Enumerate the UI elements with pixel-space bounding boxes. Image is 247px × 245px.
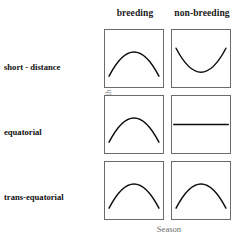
- panel-short-distance-breeding: [104, 29, 164, 88]
- row-label-short-distance: short - distance: [4, 62, 88, 72]
- panel-short-distance-non-breeding: [171, 29, 231, 88]
- curve-equatorial-non-breeding: [172, 96, 230, 153]
- panel-trans-equatorial-breeding: [104, 161, 164, 220]
- row-label-equatorial: equatorial: [4, 127, 88, 137]
- curve-path: [176, 48, 226, 72]
- daylength-season-figure: breeding non-breeding short - distance e…: [0, 0, 247, 245]
- curve-short-distance-non-breeding: [172, 30, 230, 87]
- curve-path: [176, 184, 226, 208]
- curve-equatorial-breeding: [105, 96, 163, 153]
- curve-path: [109, 52, 159, 76]
- panel-trans-equatorial-non-breeding: [171, 161, 231, 220]
- panel-equatorial-breeding: [104, 95, 164, 154]
- row-label-trans-equatorial: trans-equatorial: [4, 192, 88, 202]
- curve-path: [109, 118, 159, 142]
- column-header-breeding: breeding: [104, 8, 166, 18]
- curve-trans-equatorial-breeding: [105, 162, 163, 219]
- curve-path: [109, 184, 159, 208]
- panel-equatorial-non-breeding: [171, 95, 231, 154]
- curve-short-distance-breeding: [105, 30, 163, 87]
- curve-trans-equatorial-non-breeding: [172, 162, 230, 219]
- column-header-non-breeding: non-breeding: [170, 8, 234, 18]
- x-axis-label-season: Season: [104, 224, 234, 234]
